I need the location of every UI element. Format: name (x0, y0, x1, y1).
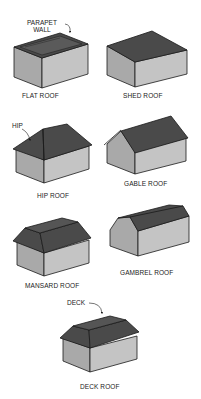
deck-roof-illustration (60, 303, 139, 372)
hip-callout: HIP (12, 123, 23, 130)
mansard-roof-illustration (13, 218, 91, 276)
gambrel-roof-illustration (110, 205, 189, 256)
roof-types-diagram (0, 0, 201, 399)
deck-roof-label: DECK ROOF (80, 384, 120, 391)
gable-roof-label: GABLE ROOF (124, 181, 167, 188)
deck-callout: DECK (67, 300, 85, 307)
hip-roof-label: HIP ROOF (37, 193, 69, 200)
parapet-wall-callout: PARAPET WALL (27, 20, 57, 34)
gable-roof-illustration (104, 116, 188, 174)
gambrel-roof-label: GAMBREL ROOF (120, 270, 173, 277)
shed-roof-illustration (107, 31, 187, 87)
flat-roof-label: FLAT ROOF (22, 93, 59, 100)
mansard-roof-label: MANSARD ROOF (25, 283, 79, 290)
hip-roof-illustration (13, 124, 92, 183)
callout-wall-text: WALL (27, 27, 57, 34)
shed-roof-label: SHED ROOF (123, 93, 163, 100)
